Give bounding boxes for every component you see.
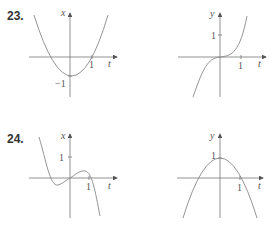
graph-23-right: y t 1 1: [178, 8, 266, 97]
graph-23-left: x t 1 −1: [29, 7, 117, 97]
y-axis-label: y: [209, 130, 215, 141]
t-tick-1: 1: [86, 181, 91, 192]
t-axis-label: t: [108, 180, 111, 191]
t-tick-1: 1: [237, 182, 242, 193]
t-axis-label: t: [258, 180, 261, 191]
y-tick-1: 1: [211, 30, 216, 41]
t-axis-label: t: [258, 58, 261, 69]
y-tick-1: 1: [211, 150, 216, 161]
graph-24-left: x t 1 1: [29, 130, 117, 218]
graph-24-right: y t 1 1: [177, 130, 263, 218]
x-axis-label: x: [60, 7, 66, 18]
cubic-curve: [39, 137, 100, 216]
y-axis-label: y: [209, 8, 215, 19]
t-tick-1: 1: [238, 60, 243, 71]
x-tick-1: 1: [59, 152, 64, 163]
parabola-curve: [34, 15, 108, 76]
graphs-figure: x t 1 −1 y t 1 1 x t 1 1 y t 1 1: [0, 0, 277, 234]
t-axis-label: t: [108, 58, 111, 69]
x-tick-neg1: −1: [55, 78, 66, 89]
x-axis-label: x: [60, 130, 66, 141]
t-tick-1: 1: [89, 59, 94, 70]
